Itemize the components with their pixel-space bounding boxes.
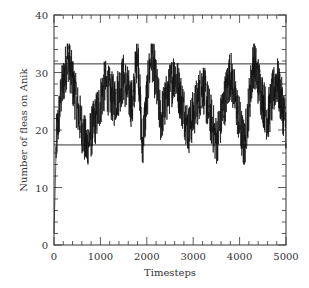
y-tick-label: 10 [35,183,48,194]
x-tick-label: 3000 [180,251,205,262]
flea-count-line [54,44,286,234]
x-tick-label: 2000 [134,251,159,262]
data-series [54,44,286,234]
y-tick-label: 20 [35,125,48,136]
tick-labels: 010002000300040005000010203040 [35,10,298,262]
x-tick-label: 5000 [273,251,298,262]
x-tick-label: 0 [51,251,57,262]
y-tick-label: 40 [35,10,48,21]
flea-count-chart: 010002000300040005000010203040 Timesteps… [0,0,309,288]
y-tick-label: 0 [42,240,48,251]
y-tick-label: 30 [35,68,48,79]
x-tick-label: 1000 [88,251,113,262]
x-tick-label: 4000 [227,251,252,262]
x-axis-title: Timesteps [144,267,196,278]
y-axis-title: Number of fleas on Anik [18,67,29,191]
